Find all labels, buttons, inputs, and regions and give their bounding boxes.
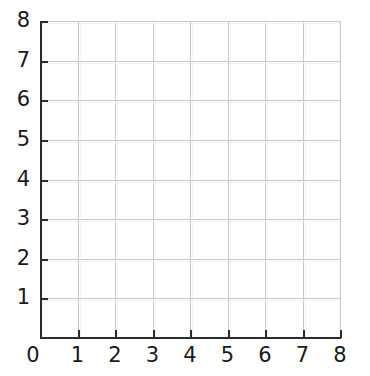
y-axis-tick	[40, 298, 48, 300]
grid-line-horizontal	[40, 61, 340, 62]
grid-line-horizontal	[40, 259, 340, 260]
y-axis-tick	[40, 219, 48, 221]
y-axis-tick	[40, 61, 48, 63]
x-axis-tick	[78, 330, 80, 338]
grid-line-horizontal	[40, 219, 340, 220]
grid-line-horizontal	[40, 140, 340, 141]
grid-line-horizontal-minor	[40, 102, 340, 103]
x-axis-tick	[40, 330, 42, 338]
x-axis-tick	[340, 330, 342, 338]
grid-line-horizontal-minor	[40, 182, 340, 183]
y-axis-tick	[40, 180, 48, 182]
y-axis-tick	[40, 140, 48, 142]
x-axis-tick	[228, 330, 230, 338]
plot-area	[40, 21, 340, 338]
grid-line-vertical	[340, 21, 341, 338]
x-axis-tick-label: 8	[327, 345, 353, 366]
x-axis-tick-label: 7	[290, 345, 316, 366]
y-axis-tick	[40, 259, 48, 261]
x-axis-tick	[115, 330, 117, 338]
y-axis-tick	[40, 100, 48, 102]
grid-line-horizontal-minor	[40, 221, 340, 222]
grid-line-horizontal-minor	[40, 23, 340, 24]
origin-label: 0	[22, 345, 44, 366]
grid-line-horizontal	[40, 180, 340, 181]
coordinate-grid-chart: 12345678012345678	[0, 0, 370, 376]
x-axis-tick	[153, 330, 155, 338]
y-axis-tick-label: 6	[2, 89, 30, 110]
x-axis-tick-label: 3	[140, 345, 166, 366]
x-axis-tick	[303, 330, 305, 338]
x-axis-tick-label: 1	[65, 345, 91, 366]
y-axis-tick-label: 2	[2, 248, 30, 269]
grid-line-horizontal	[40, 100, 340, 101]
x-axis-tick-label: 4	[177, 345, 203, 366]
x-axis-tick-label: 2	[102, 345, 128, 366]
y-axis-tick-label: 4	[2, 169, 30, 190]
y-axis-tick-label: 8	[2, 10, 30, 31]
y-axis-tick-label: 7	[2, 50, 30, 71]
x-axis-tick-label: 5	[215, 345, 241, 366]
y-axis-tick	[40, 21, 48, 23]
grid-line-horizontal-minor	[40, 300, 340, 301]
x-axis-tick	[190, 330, 192, 338]
grid-line-horizontal-minor	[40, 261, 340, 262]
y-axis-tick-label: 1	[2, 287, 30, 308]
grid-line-horizontal	[40, 298, 340, 299]
grid-line-horizontal-minor	[40, 142, 340, 143]
y-axis-tick-label: 3	[2, 208, 30, 229]
grid-line-horizontal-minor	[40, 63, 340, 64]
x-axis-tick-label: 6	[252, 345, 278, 366]
x-axis-tick	[265, 330, 267, 338]
grid-lines	[40, 21, 340, 338]
y-axis-tick-label: 5	[2, 129, 30, 150]
grid-line-horizontal	[40, 21, 340, 22]
